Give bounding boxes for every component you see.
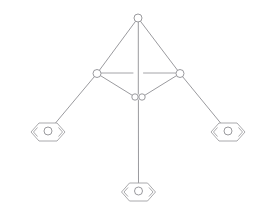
members-group (48, 18, 228, 192)
left-pin-support (31, 123, 65, 141)
center-left-joint (132, 94, 138, 100)
member-lower-right (142, 74, 180, 98)
bottom-support-pin-circle (135, 187, 143, 195)
left-support-pin-circle (44, 127, 52, 135)
right-support-pin-circle (224, 127, 232, 135)
left-knee-joint (93, 70, 101, 78)
apex-joint (134, 14, 142, 22)
center-right-joint (139, 94, 145, 100)
right-knee-joint (176, 70, 184, 78)
linkage-diagram-svg (0, 0, 267, 209)
linkage-diagram-canvas (0, 0, 267, 209)
right-pin-support (211, 123, 245, 141)
member-upper-left (97, 18, 138, 74)
member-upper-right (138, 18, 180, 74)
bottom-pin-support (122, 183, 156, 201)
member-lower-left (97, 74, 135, 98)
